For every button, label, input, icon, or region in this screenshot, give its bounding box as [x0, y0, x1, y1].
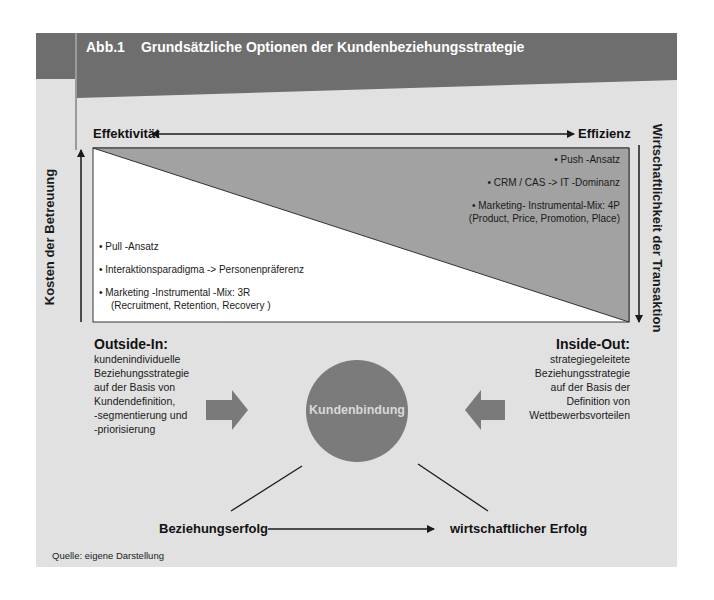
right-block-arrow — [206, 390, 248, 430]
figure-title: Abb.1Grundsätzliche Optionen der Kundenb… — [86, 39, 524, 55]
outside-in-description: kundenindividuelle Beziehungsstrategie a… — [94, 352, 189, 436]
left-block-arrow — [465, 390, 505, 430]
figure-title-text: Grundsätzliche Optionen der Kundenbezieh… — [141, 39, 525, 55]
label-wirtschaftlichkeit: Wirtschaftlichkeit der Transaktion — [645, 125, 669, 330]
list-item: • CRM / CAS -> IT -Dominanz — [469, 176, 620, 189]
inside-out-title: Inside-Out: — [529, 336, 630, 352]
relationship-success-label: Beziehungserfolg — [159, 521, 268, 536]
source-note: Quelle: eigene Darstellung — [52, 550, 164, 561]
economic-success-label: wirtschaftlicher Erfolg — [450, 521, 587, 536]
list-item: • Pull -Ansatz — [99, 240, 304, 253]
label-effizienz: Effizienz — [578, 126, 631, 141]
center-label: Kundenbindung — [307, 403, 407, 417]
list-item: • Push -Ansatz — [469, 153, 620, 166]
outside-in-block: Outside-In: kundenindividuelle Beziehung… — [94, 336, 189, 436]
push-approach-list: • Push -Ansatz • CRM / CAS -> IT -Domina… — [469, 153, 620, 235]
figure-number: Abb.1 — [86, 39, 125, 55]
inside-out-description: strategiegeleitete Beziehungsstrategie a… — [529, 352, 630, 422]
pull-approach-list: • Pull -Ansatz • Interaktionsparadigma -… — [99, 240, 304, 322]
list-item: • Marketing- Instrumental-Mix: 4P (Produ… — [469, 199, 620, 225]
list-item: • Interaktionsparadigma -> Personenpräfe… — [99, 263, 304, 276]
outside-in-title: Outside-In: — [94, 336, 189, 352]
label-kosten-der-betreuung: Kosten der Betreuung — [37, 152, 61, 322]
label-effektivitaet: Effektivität — [93, 126, 159, 141]
list-item: • Marketing -Instrumental -Mix: 3R (Recr… — [99, 286, 304, 312]
inside-out-block: Inside-Out: strategiegeleitete Beziehung… — [529, 336, 630, 422]
